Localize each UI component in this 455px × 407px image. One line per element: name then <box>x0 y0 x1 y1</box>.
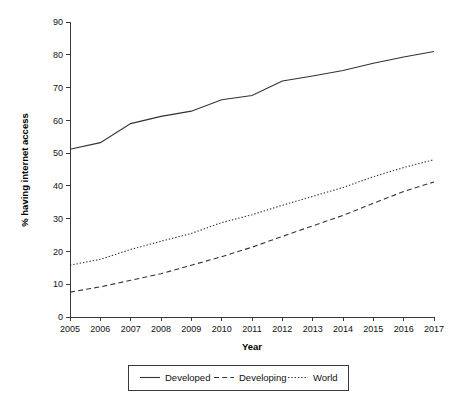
y-tick-label: 70 <box>53 83 63 93</box>
chart-canvas: 0102030405060708090 % having internet ac… <box>0 0 455 407</box>
y-tick-label: 50 <box>53 148 63 158</box>
x-tick-label: 2011 <box>242 324 261 334</box>
x-tick-label: 2009 <box>181 324 201 334</box>
y-tick-label: 60 <box>53 116 63 126</box>
x-axis-title: Year <box>242 341 262 352</box>
chart-legend: DevelopedDevelopingWorld <box>128 365 348 390</box>
x-tick-label: 2015 <box>363 324 383 334</box>
x-axis: 2005200620072008200920102011201220132014… <box>60 317 444 352</box>
x-tick-label: 2008 <box>151 324 171 334</box>
y-tick-label: 80 <box>53 50 63 60</box>
series-line-developed <box>70 52 434 150</box>
x-tick-label: 2014 <box>333 324 353 334</box>
legend-label-developed: Developed <box>165 372 210 383</box>
x-tick-label: 2010 <box>212 324 232 334</box>
y-tick-label: 10 <box>53 279 63 289</box>
legend-label-developing: Developing <box>239 372 287 383</box>
x-tick-label: 2017 <box>424 324 444 334</box>
y-tick-label: 40 <box>53 181 63 191</box>
y-tick-group: 0102030405060708090 <box>53 17 70 322</box>
x-tick-label: 2012 <box>272 324 292 334</box>
y-tick-label: 20 <box>53 247 63 257</box>
y-tick-label: 90 <box>53 17 63 27</box>
x-tick-group: 2005200620072008200920102011201220132014… <box>60 317 444 334</box>
x-tick-label: 2016 <box>394 324 414 334</box>
x-tick-label: 2005 <box>60 324 80 334</box>
series-line-developing <box>70 182 434 292</box>
series-group <box>70 52 434 293</box>
y-tick-label: 0 <box>58 312 63 322</box>
y-tick-label: 30 <box>53 214 63 224</box>
series-line-world <box>70 160 434 266</box>
x-tick-label: 2007 <box>121 324 141 334</box>
x-tick-label: 2013 <box>303 324 323 334</box>
y-axis-title: % having internet access <box>19 113 30 227</box>
x-tick-label: 2006 <box>90 324 110 334</box>
y-axis: 0102030405060708090 % having internet ac… <box>19 17 70 322</box>
legend-label-world: World <box>313 372 338 383</box>
line-chart: 0102030405060708090 % having internet ac… <box>0 0 455 407</box>
